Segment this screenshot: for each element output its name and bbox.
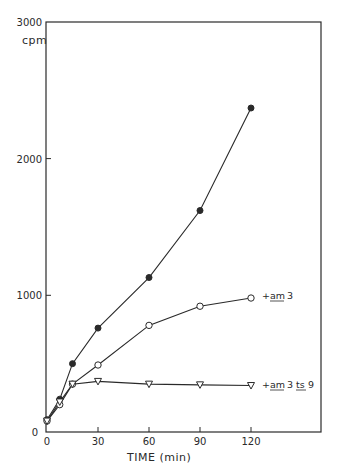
x-tick-label: 30 [92, 436, 105, 447]
x-tick-label: 0 [44, 436, 50, 447]
plus-sign: + [262, 379, 270, 390]
allele-number: 3 [287, 379, 293, 390]
open-circle-marker [248, 295, 254, 301]
allele-number: 9 [308, 379, 314, 390]
gene-ts: ts [296, 379, 305, 390]
series-markers [44, 105, 255, 425]
y-tick-label: 1000 [17, 290, 42, 301]
filled-circle-marker [248, 105, 254, 111]
x-tick-label: 60 [143, 436, 156, 447]
filled-circle-marker [197, 208, 203, 214]
y-axis-title: cpm [22, 34, 47, 47]
gene-am: am [270, 379, 285, 390]
y-tick-label: 3000 [17, 17, 42, 28]
chart-canvas: 0100020003000 0306090120 cpm TIME (min) … [0, 0, 338, 473]
series-label-am3-ts9: + am 3 ts 9 [262, 379, 314, 390]
plus-sign: + [262, 290, 270, 301]
series-lines [47, 108, 251, 421]
open-circle-marker [197, 303, 203, 309]
gene-am: am [270, 290, 285, 301]
series-line [47, 108, 251, 420]
open-circle-marker [146, 322, 152, 328]
allele-number: 3 [287, 290, 293, 301]
filled-circle-marker [95, 325, 101, 331]
y-tick-label: 0 [32, 427, 38, 438]
x-tick-label: 90 [194, 436, 207, 447]
open-circle-marker [95, 362, 101, 368]
filled-circle-marker [146, 275, 152, 281]
x-axis: 0306090120 [44, 427, 261, 447]
x-axis-title: TIME (min) [126, 451, 191, 464]
y-tick-label: 2000 [17, 154, 42, 165]
series-label-am3: + am 3 [262, 290, 293, 301]
series-line [47, 298, 251, 421]
plot-frame [46, 22, 321, 432]
filled-circle-marker [70, 361, 76, 367]
x-tick-label: 120 [241, 436, 260, 447]
